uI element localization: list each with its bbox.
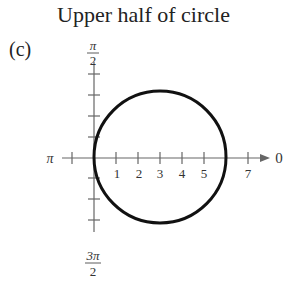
tick-2: 2 <box>136 166 143 181</box>
tick-5: 5 <box>201 166 208 181</box>
arrow-icon <box>260 154 270 162</box>
tick-4: 4 <box>179 166 186 181</box>
label-3pi-half-num: 3π <box>85 248 100 263</box>
label-3pi-half-den: 2 <box>90 264 97 279</box>
tick-1: 1 <box>114 166 121 181</box>
label-pi-half-num: π <box>90 38 97 53</box>
tick-7: 7 <box>245 166 252 181</box>
label-pi: π <box>46 151 54 166</box>
label-pi-half-den: 2 <box>90 53 97 68</box>
label-zero: 0 <box>275 150 283 166</box>
tick-3: 3 <box>157 166 164 181</box>
polar-graph: π 2 π 0 1 2 3 4 5 7 3π 2 <box>0 0 287 293</box>
